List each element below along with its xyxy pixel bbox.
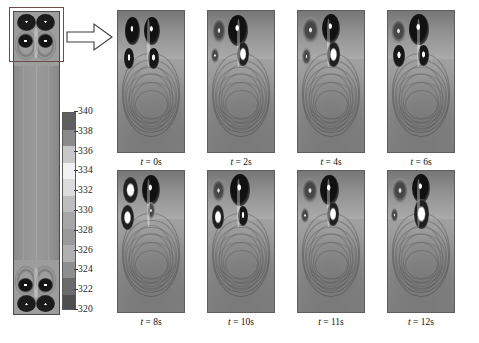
snapshot-time-label: t = 2s: [207, 157, 275, 167]
vortex-core: [123, 177, 138, 204]
colorbar-tick-label: 338: [78, 126, 93, 136]
snapshot-panel[interactable]: [117, 170, 185, 313]
colorbar-tick-mark: [74, 289, 78, 290]
colorbar-segment: [63, 113, 75, 130]
colorbar-tick-mark: [74, 131, 78, 132]
contour-line: [135, 90, 168, 119]
vortex-core: [301, 208, 309, 224]
figure-root: 340338336334332330328326324322320 t = 0s…: [0, 0, 479, 343]
colorbar-tick-mark: [74, 269, 78, 270]
snapshot-time-label: t = 12s: [387, 317, 455, 327]
contour-line: [225, 250, 258, 279]
vortex-core: [392, 178, 408, 203]
colorbar-segment: [63, 179, 75, 196]
snapshot-panel[interactable]: [207, 10, 275, 153]
snapshot-cell: t = 0s: [117, 10, 185, 167]
colorbar-tick-mark: [74, 309, 78, 310]
vortex-core: [142, 175, 160, 205]
vortex-core: [211, 48, 219, 64]
colorbar-segment: [63, 212, 75, 229]
snapshot-cell: t = 2s: [207, 10, 275, 167]
domain-bulk-region: [14, 64, 59, 264]
colorbar-segment: [63, 229, 75, 246]
vortex-core: [302, 178, 318, 203]
colorbar-tick-mark: [74, 151, 78, 152]
snapshot-grid: t = 0st = 2st = 4st = 6st = 8st = 10st =…: [117, 10, 467, 340]
colorbar-tick-label: 330: [78, 205, 93, 215]
vortex-core: [302, 48, 311, 65]
vortex-core: [212, 179, 225, 202]
colorbar-tick-label: 336: [78, 146, 93, 156]
colorbar-tick-label: 334: [78, 165, 93, 175]
colorbar-tick-mark: [74, 190, 78, 191]
snapshot-panel[interactable]: [387, 170, 455, 313]
colorbar-tick-mark: [74, 170, 78, 171]
colorbar-tick-mark: [74, 250, 78, 251]
colorbar-tick-label: 340: [78, 106, 93, 116]
contour-line: [225, 90, 258, 119]
snapshot-cell: t = 6s: [387, 10, 455, 167]
colorbar-segment: [63, 278, 75, 295]
snapshot-panel[interactable]: [207, 170, 275, 313]
colorbar-tick-label: 322: [78, 284, 93, 294]
right-arrow-icon: [66, 22, 114, 52]
colorbar-tick-label: 324: [78, 264, 93, 274]
vortex-core: [391, 208, 398, 222]
contour-line: [315, 250, 348, 279]
snapshot-panel[interactable]: [117, 10, 185, 153]
colorbar-tick-labels: 340338336334332330328326324322320: [78, 105, 114, 317]
colorbar-tick-label: 328: [78, 225, 93, 235]
colorbar-segment: [63, 130, 75, 147]
colorbar-group: 340338336334332330328326324322320: [62, 112, 114, 312]
snapshot-cell: t = 4s: [297, 10, 365, 167]
domain-bottom-plume: [14, 260, 59, 314]
snapshot-time-label: t = 8s: [117, 317, 185, 327]
contour-line: [135, 250, 168, 279]
colorbar-tick-mark: [74, 230, 78, 231]
snapshot-cell: t = 11s: [297, 170, 365, 327]
colorbar-tick-mark: [74, 111, 78, 112]
snapshot-time-label: t = 10s: [207, 317, 275, 327]
contour-line: [315, 90, 348, 119]
snapshot-panel[interactable]: [297, 10, 365, 153]
region-of-interest-box: [9, 7, 64, 62]
snapshot-time-label: t = 6s: [387, 157, 455, 167]
colorbar-tick-label: 332: [78, 185, 93, 195]
temperature-colorbar: [62, 112, 76, 310]
snapshot-cell: t = 8s: [117, 170, 185, 327]
contour-line: [405, 250, 438, 279]
snapshot-panel[interactable]: [387, 10, 455, 153]
colorbar-tick-label: 320: [78, 304, 93, 314]
snapshot-time-label: t = 4s: [297, 157, 365, 167]
vortex-core: [125, 17, 141, 45]
vortex-core: [212, 205, 224, 229]
snapshot-cell: t = 10s: [207, 170, 275, 327]
snapshot-cell: t = 12s: [387, 170, 455, 327]
colorbar-tick-label: 326: [78, 245, 93, 255]
vortex-core: [121, 205, 134, 230]
snapshot-panel[interactable]: [297, 170, 365, 313]
snapshot-time-label: t = 0s: [117, 157, 185, 167]
snapshot-time-label: t = 11s: [297, 317, 365, 327]
colorbar-tick-mark: [74, 210, 78, 211]
colorbar-segment: [63, 295, 75, 311]
contour-line: [405, 90, 438, 119]
colorbar-segment: [63, 245, 75, 262]
colorbar-segment: [63, 146, 75, 163]
